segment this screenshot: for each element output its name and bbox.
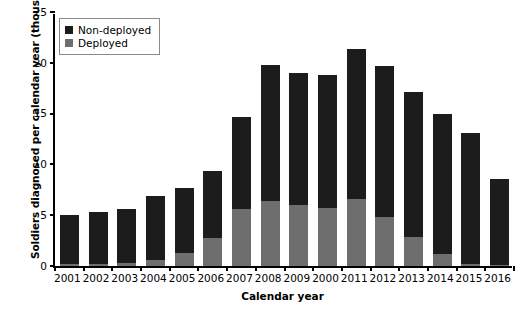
bar-group[interactable] bbox=[433, 114, 452, 266]
bar-segment-non-deployed[interactable] bbox=[203, 171, 222, 238]
bar-segment-deployed[interactable] bbox=[404, 237, 423, 266]
bar-segment-deployed[interactable] bbox=[146, 260, 165, 266]
y-axis-tick-mark bbox=[50, 11, 55, 13]
x-axis-tick-mark bbox=[456, 266, 458, 271]
bar-segment-deployed[interactable] bbox=[375, 217, 394, 266]
bar-group[interactable] bbox=[461, 133, 480, 266]
bar-segment-deployed[interactable] bbox=[347, 199, 366, 266]
x-axis-tick-mark bbox=[513, 266, 515, 271]
chart-legend: Non-deployed Deployed bbox=[59, 18, 160, 55]
bar-group[interactable] bbox=[117, 209, 136, 266]
bar-group[interactable] bbox=[60, 215, 79, 266]
bar-group[interactable] bbox=[404, 92, 423, 266]
bar-group[interactable] bbox=[490, 179, 509, 266]
bar-segment-deployed[interactable] bbox=[289, 205, 308, 266]
bar-group[interactable] bbox=[375, 66, 394, 266]
x-axis-tick-mark bbox=[140, 266, 142, 271]
x-axis-tick-label: 2016 bbox=[478, 273, 518, 284]
x-axis-tick-mark bbox=[312, 266, 314, 271]
legend-item-non-deployed: Non-deployed bbox=[65, 24, 151, 36]
bar-segment-deployed[interactable] bbox=[89, 264, 108, 266]
bar-segment-non-deployed[interactable] bbox=[232, 117, 251, 209]
bar-segment-non-deployed[interactable] bbox=[347, 49, 366, 199]
y-axis-tick-label: 0 bbox=[27, 261, 47, 272]
bar-segment-non-deployed[interactable] bbox=[175, 188, 194, 253]
x-axis-tick-mark bbox=[111, 266, 113, 271]
y-axis-tick-label: 25 bbox=[27, 7, 47, 18]
bar-segment-deployed[interactable] bbox=[203, 238, 222, 266]
bar-segment-deployed[interactable] bbox=[318, 208, 337, 266]
bar-segment-non-deployed[interactable] bbox=[261, 65, 280, 201]
bar-group[interactable] bbox=[89, 212, 108, 266]
bar-segment-deployed[interactable] bbox=[117, 263, 136, 266]
bar-segment-deployed[interactable] bbox=[490, 265, 509, 266]
bar-group[interactable] bbox=[175, 188, 194, 266]
bar-segment-deployed[interactable] bbox=[60, 264, 79, 266]
bar-group[interactable] bbox=[146, 196, 165, 266]
bar-segment-deployed[interactable] bbox=[175, 253, 194, 266]
x-axis-tick-mark bbox=[255, 266, 257, 271]
bar-segment-non-deployed[interactable] bbox=[146, 196, 165, 260]
bar-segment-non-deployed[interactable] bbox=[89, 212, 108, 264]
legend-label-non-deployed: Non-deployed bbox=[78, 24, 151, 36]
bar-segment-non-deployed[interactable] bbox=[490, 179, 509, 265]
x-axis-tick-mark bbox=[83, 266, 85, 271]
bar-segment-deployed[interactable] bbox=[461, 264, 480, 266]
bar-segment-non-deployed[interactable] bbox=[289, 73, 308, 205]
bar-group[interactable] bbox=[318, 75, 337, 266]
bar-segment-non-deployed[interactable] bbox=[461, 133, 480, 264]
x-axis-title: Calendar year bbox=[53, 290, 512, 302]
x-axis-tick-mark bbox=[197, 266, 199, 271]
y-axis-tick-label: 10 bbox=[27, 159, 47, 170]
bar-segment-non-deployed[interactable] bbox=[404, 92, 423, 236]
x-axis-tick-mark bbox=[427, 266, 429, 271]
x-axis-tick-mark bbox=[398, 266, 400, 271]
bar-segment-non-deployed[interactable] bbox=[375, 66, 394, 217]
bar-group[interactable] bbox=[261, 65, 280, 266]
bar-segment-non-deployed[interactable] bbox=[117, 209, 136, 263]
bar-group[interactable] bbox=[232, 117, 251, 266]
legend-swatch-non-deployed bbox=[65, 26, 73, 34]
y-axis-tick-label: 5 bbox=[27, 210, 47, 221]
x-axis-tick-mark bbox=[341, 266, 343, 271]
bar-group[interactable] bbox=[203, 171, 222, 267]
x-axis-tick-mark bbox=[284, 266, 286, 271]
chart-figure: Soldiers diagnosed per calendar year (th… bbox=[0, 0, 523, 311]
x-axis-tick-mark bbox=[54, 266, 56, 271]
bar-group[interactable] bbox=[289, 73, 308, 266]
bar-segment-deployed[interactable] bbox=[232, 209, 251, 266]
bar-segment-deployed[interactable] bbox=[261, 201, 280, 266]
legend-item-deployed: Deployed bbox=[65, 37, 151, 49]
y-axis-tick-label: 20 bbox=[27, 58, 47, 69]
legend-swatch-deployed bbox=[65, 39, 73, 47]
bar-group[interactable] bbox=[347, 49, 366, 266]
bar-segment-deployed[interactable] bbox=[433, 254, 452, 266]
x-axis-tick-mark bbox=[484, 266, 486, 271]
bar-segment-non-deployed[interactable] bbox=[433, 114, 452, 254]
x-axis-tick-mark bbox=[169, 266, 171, 271]
x-axis-tick-mark bbox=[370, 266, 372, 271]
bar-segment-non-deployed[interactable] bbox=[318, 75, 337, 208]
y-axis-tick-label: 15 bbox=[27, 108, 47, 119]
bar-segment-non-deployed[interactable] bbox=[60, 215, 79, 264]
x-axis-tick-mark bbox=[226, 266, 228, 271]
legend-label-deployed: Deployed bbox=[78, 37, 128, 49]
